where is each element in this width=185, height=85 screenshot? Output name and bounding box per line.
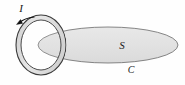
label-surface: S <box>119 39 125 51</box>
label-contour: C <box>128 64 135 75</box>
figure-svg: I S C <box>0 0 185 85</box>
physics-figure-canvas: I S C <box>0 0 185 85</box>
ellipse-surface-outer-part <box>38 27 178 63</box>
surface-outside-loop-segment <box>38 27 178 63</box>
